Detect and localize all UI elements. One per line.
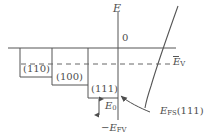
mean-valence-level-subscript: V <box>180 60 185 68</box>
energy-axis-label: E <box>113 3 121 14</box>
flat-band-valence-subscript: FV <box>117 126 127 134</box>
mean-valence-level-label: EV <box>173 57 185 68</box>
step-label-100: (100) <box>56 72 83 82</box>
mean-valence-level-symbol: E <box>173 56 180 67</box>
surface-fermi-subscript: FS <box>167 109 176 117</box>
surface-fermi-label: EFS(111) <box>160 106 204 117</box>
flat-band-valence-symbol: E <box>109 122 116 133</box>
flat-band-valence-label: −EFV <box>101 123 126 134</box>
step-label-111: (111) <box>91 84 118 94</box>
gap-energy-subscript: 0 <box>112 104 116 112</box>
energy-band-diagram-figure: E 0 (110) (100) (111) EV E0 −EFV EFS(111… <box>0 0 212 140</box>
surface-fermi-orientation: (111) <box>177 105 204 116</box>
gap-energy-label: E0 <box>105 101 117 112</box>
origin-zero-label: 0 <box>122 33 128 43</box>
step-label-110: (110) <box>23 64 50 74</box>
